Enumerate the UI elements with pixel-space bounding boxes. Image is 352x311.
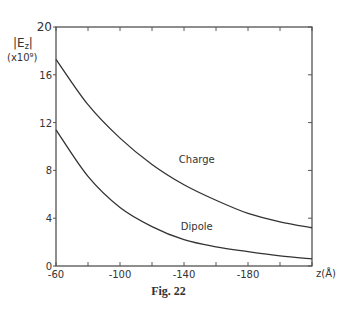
x-tick-label: -140 (173, 269, 196, 280)
y-axis-label: |Ez| (13, 36, 33, 51)
y-tick-label: 0 (46, 261, 52, 272)
series-label-charge: Charge (179, 154, 215, 165)
x-tick-label: -100 (109, 269, 132, 280)
figure-caption: Fig. 22 (0, 284, 337, 299)
x-tick-label: -180 (237, 269, 260, 280)
y-tick-labels: 048121620 (37, 20, 52, 272)
y-axis-unit: (x10⁹) (7, 52, 38, 63)
series-labels: ChargeDipole (179, 154, 215, 232)
y-tick-label: 12 (39, 118, 52, 129)
y-tick-label: 16 (39, 70, 52, 81)
y-tick-label: 4 (46, 213, 52, 224)
x-tick-labels: -60-100-140-180 (48, 269, 260, 280)
x-axis-label: z(Å) (316, 267, 336, 279)
line-chart: -60-100-140-180 048121620 ChargeDipole |… (0, 0, 352, 311)
series-charge-line (56, 59, 312, 227)
y-tick-label: 20 (37, 20, 52, 34)
series-dipole-line (56, 130, 312, 259)
series-label-dipole: Dipole (181, 221, 213, 232)
y-tick-label: 8 (46, 165, 52, 176)
